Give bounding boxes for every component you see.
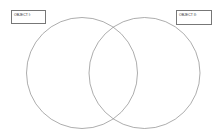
venn-diagram (0, 0, 218, 135)
left-circle (27, 18, 138, 129)
right-circle (89, 18, 200, 129)
